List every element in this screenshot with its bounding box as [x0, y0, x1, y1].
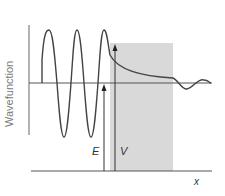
tunneling-diagram	[0, 0, 225, 196]
y-axis-label: Wavefunction	[3, 61, 15, 127]
x-axis-label: x	[194, 176, 199, 187]
barrier-height-label: V	[120, 145, 127, 157]
energy-label: E	[92, 145, 99, 157]
energy-arrow-head	[102, 84, 107, 91]
